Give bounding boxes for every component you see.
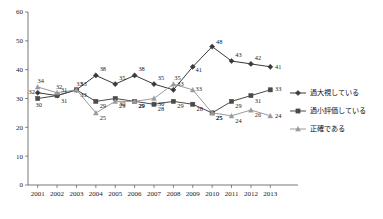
data-point-label: 32 [56,83,62,90]
series-line-1 [38,90,271,113]
data-point-marker [171,82,176,87]
x-axis-tick-label: 2008 [166,190,181,198]
data-point-label: 35 [119,74,125,81]
data-point-label: 42 [255,54,261,61]
legend-item-0[interactable]: 過大視している [290,88,359,97]
data-point-label: 41 [196,66,202,73]
x-axis-tick-label: 2007 [147,190,162,198]
data-point-marker [249,108,254,113]
data-point-label: 33 [196,85,202,92]
x-axis-tick-label: 2011 [225,190,239,198]
y-axis-tick-label: 30 [16,95,24,103]
x-axis-tick-label: 2009 [186,190,201,198]
data-point-label: 24 [235,117,242,124]
y-axis-tick-label: 0 [20,181,24,189]
data-point-marker [268,88,272,92]
chart-container: 0102030405060 20012002200320042005200620… [0,0,383,219]
x-axis-tick-label: 2002 [50,190,65,198]
y-axis-tick-label: 40 [16,66,24,74]
legend-item-label: 過小評価している [310,106,366,115]
x-axis-tick-label: 2010 [205,190,220,198]
x-axis-tick-label: 2003 [69,190,84,198]
data-point-marker [191,102,195,106]
data-point-label: 35 [174,74,180,81]
legend: 過大視している過小評価している正確である [290,88,366,133]
data-point-marker [151,81,156,86]
data-point-label: 33 [80,91,86,98]
data-point-marker [94,99,98,103]
data-point-marker [132,73,137,78]
data-labels-layer: 3231333835383533414843424130313329302928… [28,38,282,124]
x-axis-tick-label: 2012 [244,190,259,198]
data-point-label: 25 [216,114,222,121]
data-point-marker [229,99,233,103]
legend-swatch-marker [295,90,300,95]
legend-item-label: 正確である [310,124,345,133]
legend-item-label: 過大視している [310,88,359,97]
x-axis-tick-label: 2004 [89,190,104,198]
data-point-label: 31 [255,97,261,104]
data-point-marker [171,99,175,103]
y-axis: 0102030405060 [16,8,28,189]
legend-swatch-marker [296,109,300,113]
data-point-label: 41 [275,63,281,70]
data-point-marker [249,94,253,98]
y-axis-tick-label: 10 [16,153,24,161]
data-point-label: 33 [275,85,281,92]
data-point-label: 24 [275,112,282,119]
legend-item-1[interactable]: 過小評価している [290,106,366,115]
legend-item-2[interactable]: 正確である [290,124,345,133]
data-point-marker [113,81,118,86]
data-point-label: 34 [37,77,44,84]
data-point-label: 29 [235,102,241,109]
x-axis-tick-label: 2005 [108,190,123,198]
data-point-label: 32 [28,88,34,95]
line-chart: 0102030405060 20012002200320042005200620… [0,0,383,219]
data-point-label: 38 [100,65,106,72]
data-point-label: 29 [138,102,144,109]
data-point-marker [35,85,40,90]
y-axis-tick-label: 20 [16,124,24,132]
x-axis: 2001200220032004200520062007200820092010… [28,185,298,198]
y-axis-tick-label: 60 [16,8,24,16]
x-axis-tick-label: 2013 [263,190,278,198]
data-point-label: 28 [197,105,203,112]
data-point-marker [248,61,253,66]
y-axis-tick-label: 50 [16,37,24,45]
data-point-label: 25 [100,114,106,121]
x-axis-tick-label: 2001 [31,190,46,198]
data-point-label: 29 [119,102,125,109]
data-point-label: 29 [100,102,106,109]
data-point-label: 31 [61,97,67,104]
data-point-label: 33 [76,80,82,87]
data-point-label: 48 [216,38,222,45]
data-point-label: 35 [158,74,164,81]
x-axis-tick-label: 2006 [128,190,143,198]
data-point-marker [268,64,273,69]
data-point-label: 30 [158,100,164,107]
data-point-marker [35,90,40,95]
data-point-label: 26 [255,111,261,118]
data-point-marker [152,102,156,106]
data-point-label: 30 [35,101,41,108]
data-point-label: 38 [138,65,144,72]
data-point-label: 43 [235,51,241,58]
data-point-label: 29 [177,102,183,109]
